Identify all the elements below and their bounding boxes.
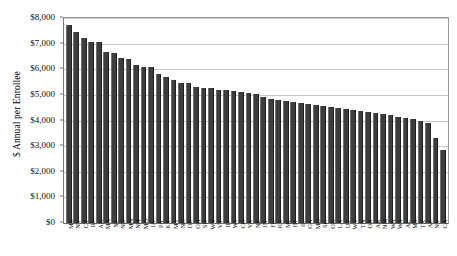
- bar: [343, 109, 349, 223]
- x-axis-tick-label-cell: SC: [319, 224, 325, 256]
- bar: [201, 88, 207, 223]
- x-axis-tick-label-cell: TN: [357, 224, 363, 256]
- bar: [178, 83, 184, 223]
- bar: [81, 38, 87, 223]
- y-axis-tick-label: $2,000: [1, 166, 55, 176]
- x-axis-tick-label-cell: MN: [125, 224, 131, 256]
- x-axis-tick-label-cell: NY: [72, 224, 78, 256]
- bar: [88, 42, 94, 223]
- y-axis-tick-label: $8,000: [1, 12, 55, 22]
- bar: [156, 74, 162, 223]
- x-axis-tick-label-cell: IN: [259, 224, 265, 256]
- bars-container: [64, 18, 448, 223]
- bar: [73, 32, 79, 223]
- x-axis-tick-label-cell: WV: [207, 224, 213, 256]
- x-axis-tick-label-cell: NV: [432, 224, 438, 256]
- bar: [328, 107, 334, 223]
- bar: [103, 52, 109, 223]
- bar: [133, 65, 139, 223]
- bar: [231, 91, 237, 223]
- y-axis-tick-label: $7,000: [1, 38, 55, 48]
- y-axis-tick-label: $0: [1, 217, 55, 227]
- x-axis-tick-label-cell: CO: [237, 224, 243, 256]
- bar: [403, 118, 409, 223]
- x-axis-tick-label-cell: ND: [117, 224, 123, 256]
- x-axis-tick-label-cell: AK: [95, 224, 101, 256]
- x-axis-tick-label-cell: KS: [274, 224, 280, 256]
- x-axis-tick-label-cell: WI: [230, 224, 236, 256]
- bar: [358, 111, 364, 223]
- x-axis-tick-label-cell: NH: [132, 224, 138, 256]
- x-axis-tick-label-cell: UT: [342, 224, 348, 256]
- x-axis-tick-label-cell: VA: [245, 224, 251, 256]
- bar: [96, 42, 102, 223]
- bar: [223, 90, 229, 223]
- bar: [298, 103, 304, 223]
- x-axis-tick-label-cell: OR: [364, 224, 370, 256]
- x-axis-tick-label-cell: NE: [252, 224, 258, 256]
- x-axis-tick-label-cell: MI: [282, 224, 288, 256]
- bar: [111, 53, 117, 223]
- x-axis-tick-label-cell: TX: [417, 224, 423, 256]
- x-axis-tick-label-cell: CA: [439, 224, 445, 256]
- bar: [171, 80, 177, 224]
- bar: [268, 99, 274, 223]
- y-axis-tick-label: $4,000: [1, 115, 55, 125]
- x-axis-tick-label-cell: PA: [155, 224, 161, 256]
- bar: [238, 92, 244, 223]
- x-axis-tick-label-cell: AL: [402, 224, 408, 256]
- x-axis-tick-label-cell: VT: [215, 224, 221, 256]
- plot-area: [63, 17, 449, 224]
- x-axis-tick-label-cell: ID: [222, 224, 228, 256]
- bar: [246, 93, 252, 223]
- x-axis-tick-label-cell: NJ: [110, 224, 116, 256]
- bar: [350, 110, 356, 223]
- bar: [440, 150, 446, 223]
- x-axis-tick-label-cell: HI: [289, 224, 295, 256]
- y-axis-tick-labels: $8,000$7,000$6,000$5,000$4,000$3,000$2,0…: [0, 0, 60, 256]
- bar: [260, 97, 266, 223]
- x-axis-tick-label-cell: RI: [87, 224, 93, 256]
- bar: [373, 113, 379, 223]
- bar: [335, 108, 341, 223]
- bar: [425, 123, 431, 223]
- x-axis-tick-label-cell: MA: [102, 224, 108, 256]
- x-axis-tick-label-cell: MD: [140, 224, 146, 256]
- x-axis-tick-label-cell: MT: [170, 224, 176, 256]
- x-axis-tick-label-cell: AR: [372, 224, 378, 256]
- x-axis-tick-label-cell: GA: [304, 224, 310, 256]
- y-axis-tick-label: $6,000: [1, 63, 55, 73]
- x-axis-tick-label-cell: DE: [185, 224, 191, 256]
- bar: [275, 100, 281, 223]
- bar: [253, 94, 259, 223]
- bar: [380, 114, 386, 223]
- bar: [66, 25, 72, 223]
- bar: [290, 102, 296, 223]
- bar: [433, 138, 439, 223]
- x-axis-tick-label-cell: CT: [80, 224, 86, 256]
- bar: [118, 58, 124, 223]
- x-axis-tick-label-cell: NC: [177, 224, 183, 256]
- bar: [148, 67, 154, 223]
- bar: [395, 117, 401, 223]
- x-axis-tick-label-cell: OK: [327, 224, 333, 256]
- x-axis-tick-label-cell: WA: [394, 224, 400, 256]
- x-axis-tick-label-cell: MS: [409, 224, 415, 256]
- bar: [186, 83, 192, 223]
- bar: [410, 119, 416, 223]
- bar: [320, 106, 326, 223]
- x-axis-tick-label-cell: AZ: [424, 224, 430, 256]
- x-axis-tick-labels: MENYCTRIAKMANJNDMNNHMDIAPAKYMTNCDEOHSDWV…: [63, 224, 447, 256]
- bar: [163, 77, 169, 223]
- x-axis-tick-label-cell: SD: [200, 224, 206, 256]
- bar: [141, 67, 147, 223]
- y-axis-tick-label: $1,000: [1, 191, 55, 201]
- x-axis-tick-label-cell: WY: [349, 224, 355, 256]
- bar: [283, 101, 289, 223]
- x-axis-tick-label-cell: ME: [65, 224, 71, 256]
- x-axis-tick-label-cell: FL: [267, 224, 273, 256]
- bar-chart: $ Annual per Enrollee $8,000$7,000$6,000…: [0, 0, 457, 256]
- bar: [208, 88, 214, 223]
- bar: [365, 112, 371, 223]
- bar: [193, 87, 199, 223]
